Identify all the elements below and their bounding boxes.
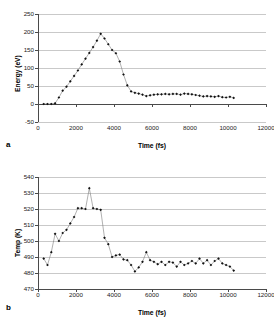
- y-tick-label: 0: [12, 101, 34, 107]
- x-axis-title-a: Time (fs): [38, 142, 266, 149]
- data-point-marker: [99, 208, 102, 211]
- data-point-marker: [187, 262, 190, 265]
- data-point-marker: [179, 93, 182, 96]
- data-point-marker: [141, 93, 144, 96]
- data-series-layer: [38, 14, 266, 122]
- data-point-marker: [69, 222, 72, 225]
- data-point-marker: [153, 260, 156, 263]
- plot-area-b: 4704804905005105205305400200040006000800…: [38, 177, 266, 289]
- data-point-marker: [191, 93, 194, 96]
- data-point-marker: [73, 216, 76, 219]
- data-point-marker: [111, 256, 114, 259]
- y-tick-label: 530: [12, 190, 34, 196]
- data-point-marker: [46, 264, 49, 267]
- data-point-marker: [210, 95, 213, 98]
- y-tick-label: 480: [12, 270, 34, 276]
- data-point-marker: [46, 103, 49, 106]
- data-point-marker: [42, 103, 45, 106]
- data-point-marker: [232, 97, 235, 100]
- data-point-marker: [160, 93, 163, 96]
- y-tick-mark: [35, 122, 38, 123]
- data-point-marker: [122, 73, 125, 76]
- data-point-marker: [107, 243, 110, 246]
- data-point-marker: [84, 208, 87, 211]
- data-series-layer: [38, 177, 266, 289]
- x-axis-title-b: Time (fs): [38, 309, 266, 316]
- data-point-marker: [156, 263, 159, 266]
- data-point-marker: [191, 260, 194, 263]
- figure-panels: -500501001502002500200040006000800010000…: [0, 0, 274, 326]
- data-point-marker: [229, 95, 232, 98]
- data-point-marker: [149, 259, 152, 262]
- x-tick-label: 2000: [61, 292, 91, 298]
- data-point-marker: [80, 207, 83, 210]
- data-point-marker: [149, 94, 152, 97]
- panel-letter-a: a: [6, 140, 10, 149]
- data-point-marker: [50, 103, 53, 106]
- data-point-marker: [217, 95, 220, 98]
- x-tick-label: 12000: [251, 125, 274, 131]
- series-line: [44, 188, 234, 271]
- x-tick-label: 10000: [213, 292, 243, 298]
- data-point-marker: [137, 92, 140, 95]
- x-tick-label: 10000: [213, 125, 243, 131]
- data-point-marker: [115, 254, 118, 257]
- data-point-marker: [187, 93, 190, 96]
- y-tick-label: 520: [12, 206, 34, 212]
- plot-area-a: -500501001502002500200040006000800010000…: [38, 14, 266, 122]
- data-point-marker: [202, 95, 205, 98]
- data-point-marker: [88, 187, 91, 190]
- panel-letter-b: b: [6, 303, 11, 312]
- data-point-marker: [164, 93, 167, 96]
- data-point-marker: [103, 236, 106, 239]
- data-point-marker: [145, 251, 148, 254]
- data-point-marker: [225, 264, 228, 267]
- panel-b: 4704804905005105205305400200040006000800…: [0, 163, 274, 326]
- data-point-marker: [198, 94, 201, 97]
- data-point-marker: [92, 207, 95, 210]
- y-tick-label: 200: [12, 29, 34, 35]
- data-point-marker: [130, 90, 133, 93]
- y-axis-title-b: Temp (K): [14, 229, 21, 257]
- x-tick-label: 4000: [99, 292, 129, 298]
- data-point-marker: [156, 93, 159, 96]
- data-point-marker: [172, 93, 175, 96]
- y-tick-label: 540: [12, 174, 34, 180]
- data-point-marker: [96, 208, 99, 211]
- data-point-marker: [153, 93, 156, 96]
- data-point-marker: [54, 232, 57, 235]
- data-point-marker: [134, 91, 137, 94]
- data-point-marker: [221, 96, 224, 99]
- x-tick-label: 8000: [175, 125, 205, 131]
- data-point-marker: [194, 94, 197, 97]
- x-tick-label: 6000: [137, 125, 167, 131]
- data-point-marker: [118, 60, 121, 63]
- data-point-marker: [213, 95, 216, 98]
- data-point-marker: [42, 257, 45, 260]
- gridline-y: [38, 122, 266, 123]
- y-tick-label: 250: [12, 11, 34, 17]
- data-point-marker: [175, 93, 178, 96]
- x-tick-mark: [266, 104, 267, 107]
- y-tick-label: 510: [12, 222, 34, 228]
- data-point-marker: [126, 84, 129, 87]
- data-point-marker: [58, 240, 61, 243]
- data-point-marker: [225, 96, 228, 99]
- x-tick-label: 0: [23, 125, 53, 131]
- x-tick-label: 8000: [175, 292, 205, 298]
- data-point-marker: [183, 92, 186, 95]
- data-point-marker: [168, 93, 171, 96]
- x-tick-label: 0: [23, 292, 53, 298]
- y-tick-label: 150: [12, 47, 34, 53]
- x-tick-label: 6000: [137, 292, 167, 298]
- x-tick-label: 12000: [251, 292, 274, 298]
- data-point-marker: [206, 95, 209, 98]
- y-axis-title-a: Energy (eV): [14, 55, 21, 92]
- x-tick-label: 4000: [99, 125, 129, 131]
- data-point-marker: [145, 95, 148, 98]
- data-point-marker: [96, 39, 99, 42]
- x-tick-label: 2000: [61, 125, 91, 131]
- panel-a: -500501001502002500200040006000800010000…: [0, 0, 274, 163]
- data-point-marker: [50, 251, 53, 254]
- data-point-marker: [77, 207, 80, 210]
